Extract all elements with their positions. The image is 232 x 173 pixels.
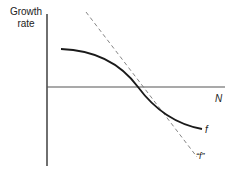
growth-curve-f — [61, 49, 202, 129]
tangent-dashed-line — [86, 12, 197, 157]
curve-label: f — [205, 125, 208, 135]
tangent-label: “f” — [196, 152, 205, 161]
x-axis-label: N — [215, 94, 222, 104]
y-axis-label-line1: Growth — [8, 6, 44, 18]
y-axis-label-line2: rate — [8, 18, 44, 30]
y-axis-label: Growth rate — [8, 6, 44, 30]
